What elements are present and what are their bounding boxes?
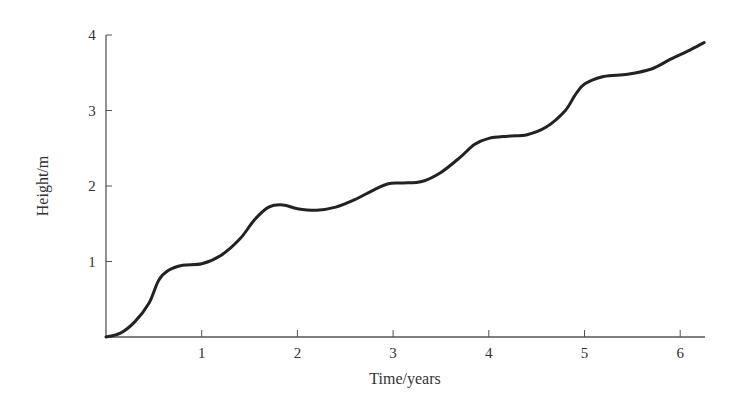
- line-chart: 1234 123456 Time/years Height/m: [0, 0, 738, 411]
- height-curve: [106, 43, 704, 337]
- axes: [106, 35, 705, 337]
- y-tick-label: 1: [88, 254, 96, 270]
- x-tick-label: 1: [198, 345, 206, 361]
- x-tick-label: 5: [581, 345, 589, 361]
- x-ticks: 123456: [198, 330, 685, 361]
- x-tick-label: 3: [389, 345, 397, 361]
- x-axis-title: Time/years: [369, 370, 440, 388]
- y-tick-label: 2: [88, 178, 96, 194]
- x-tick-label: 6: [676, 345, 684, 361]
- x-tick-label: 4: [485, 345, 493, 361]
- x-tick-label: 2: [294, 345, 302, 361]
- y-tick-label: 3: [88, 103, 96, 119]
- y-tick-label: 4: [88, 27, 96, 43]
- y-axis-title: Height/m: [34, 155, 52, 216]
- y-ticks: 1234: [88, 27, 112, 270]
